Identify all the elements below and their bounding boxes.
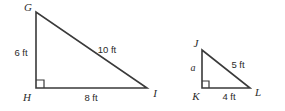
right-angle-marker-H xyxy=(36,80,44,88)
vertex-label-I: I xyxy=(152,87,158,99)
side-label-HI: 8 ft xyxy=(84,92,98,103)
triangle-JKL: J K L a 5 ft 4 ft xyxy=(191,37,262,102)
side-label-JL: 5 ft xyxy=(231,59,245,70)
right-angle-marker-K xyxy=(202,81,209,88)
side-label-GH: 6 ft xyxy=(14,47,28,58)
vertex-label-K: K xyxy=(191,90,200,102)
triangle-GHI-outline xyxy=(36,12,147,88)
vertex-label-H: H xyxy=(22,91,32,103)
vertex-label-L: L xyxy=(254,86,261,98)
triangle-GHI: G H I 6 ft 10 ft 8 ft xyxy=(14,1,158,103)
side-label-JK: a xyxy=(191,62,196,73)
similar-triangles-svg: G H I 6 ft 10 ft 8 ft J K L a 5 ft 4 ft xyxy=(0,0,285,111)
side-label-KL: 4 ft xyxy=(222,91,236,102)
side-label-GI: 10 ft xyxy=(98,44,117,55)
vertex-label-J: J xyxy=(194,37,200,49)
geometry-figure: G H I 6 ft 10 ft 8 ft J K L a 5 ft 4 ft xyxy=(0,0,285,111)
vertex-label-G: G xyxy=(24,1,32,13)
